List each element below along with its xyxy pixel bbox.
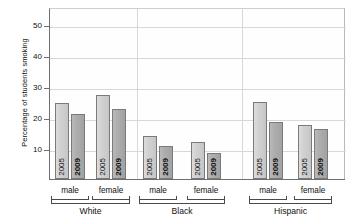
bar-hispanic-male-2005: 2005 [253, 102, 267, 179]
bar-black-female-2005: 2005 [191, 142, 205, 179]
bar-year-label: 2005 [99, 158, 107, 176]
bar-black-male-2005: 2005 [143, 136, 157, 179]
bar-year-label: 2005 [301, 158, 309, 176]
bar-year-label: 2009 [162, 158, 170, 176]
y-tick-label-20: 20 [22, 115, 42, 123]
bar-year-label: 2009 [115, 158, 123, 176]
race-label-hispanic: Hispanic [251, 206, 331, 216]
y-tick-label-50: 50 [22, 22, 42, 30]
bar-black-male-2009: 2009 [159, 146, 173, 179]
bar-white-female-2009: 2009 [112, 109, 126, 179]
bar-year-label: 2009 [272, 158, 280, 176]
sex-label-hispanic-female: female [283, 186, 343, 195]
bar-black-female-2009: 2009 [207, 153, 221, 179]
bar-hispanic-female-2005: 2005 [298, 125, 312, 179]
bar-white-male-2005: 2005 [55, 103, 69, 179]
race-bracket-black [139, 200, 225, 204]
bar-year-label: 2005 [58, 158, 66, 176]
bars-layer: 2005200920052009200520092005200920052009… [49, 8, 345, 179]
y-tick-label-40: 40 [22, 53, 42, 61]
race-label-black: Black [142, 206, 222, 216]
bar-year-label: 2009 [74, 158, 82, 176]
race-bracket-hispanic [249, 200, 332, 204]
bar-chart: Percentage of students smoking 50 40 30 … [0, 0, 353, 224]
bar-year-label: 2009 [317, 158, 325, 176]
bar-hispanic-male-2009: 2009 [269, 122, 283, 179]
bar-white-male-2009: 2009 [71, 114, 85, 179]
x-axis-line [49, 179, 345, 180]
race-bracket-white [51, 200, 130, 204]
bar-hispanic-female-2009: 2009 [314, 129, 328, 179]
bar-year-label: 2005 [194, 158, 202, 176]
y-tick-label-30: 30 [22, 84, 42, 92]
race-label-white: White [51, 206, 131, 216]
y-tick-label-10: 10 [22, 146, 42, 154]
bar-year-label: 2009 [210, 158, 218, 176]
bar-year-label: 2005 [146, 158, 154, 176]
sex-label-black-female: female [176, 186, 236, 195]
bar-year-label: 2005 [256, 158, 264, 176]
bar-white-female-2005: 2005 [96, 95, 110, 179]
